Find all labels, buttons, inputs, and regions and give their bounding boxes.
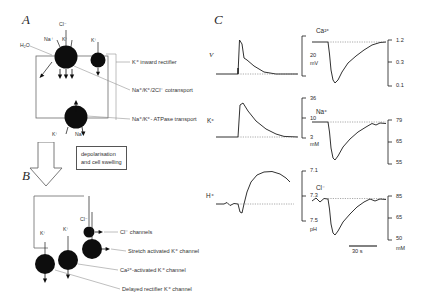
trace-ca-tick-12: 1.2 xyxy=(396,37,404,44)
annotation-nak-atpase: Na⁺/K⁺- ATPase transport xyxy=(132,116,197,123)
trace-na-plot xyxy=(312,116,392,168)
annotation-ca-activated-k: Ca²⁺-activated K⁺ channel xyxy=(120,267,186,274)
trace-ca-tick-03: 0.3 xyxy=(396,59,404,66)
label-k-mid-b: K⁺ xyxy=(40,230,46,237)
label-k-rectifier-a: K⁺ xyxy=(91,37,97,44)
annotation-cl-channels: Cl⁻ channels xyxy=(120,229,152,236)
label-k-left-b: K⁺ xyxy=(63,226,69,233)
label-cl-b: Cl⁻ xyxy=(80,216,88,223)
panel-b-diagram xyxy=(8,190,208,300)
trace-h-tick-71: 7.1 xyxy=(310,167,318,174)
k-inward-rectifier-circle xyxy=(91,53,106,68)
trace-k-tick-36: 36 xyxy=(310,95,316,102)
annotation-nak2cl-cotransport: Na⁺/K⁺/2Cl⁻ cotransport xyxy=(132,87,193,94)
trace-cl-tick-65: 65 xyxy=(396,214,402,221)
ca-activated-k-channel-circle xyxy=(58,250,78,270)
trace-label-na: Na⁺ xyxy=(316,108,327,116)
label-na-a: Na⁺ xyxy=(44,36,54,43)
trace-label-h: H⁺ xyxy=(206,192,214,200)
trace-cl-plot xyxy=(312,192,392,244)
trace-cl-unit: mM xyxy=(396,245,405,252)
trace-cl-tick-50: 50 xyxy=(396,235,402,242)
label-cl-a: Cl⁻ xyxy=(59,21,67,28)
trace-v-plot xyxy=(216,32,306,82)
cotransporter-circle xyxy=(55,46,78,69)
time-scale-label: 30 s xyxy=(352,248,363,255)
annotation-k-inward-rectifier: K⁺ inward rectifier xyxy=(132,59,177,66)
label-k-pump-a: K⁺ xyxy=(52,131,58,138)
cell-outline-b xyxy=(34,196,84,248)
trace-na-tick-65: 65 xyxy=(396,138,402,145)
label-h2o-a: H₂O xyxy=(20,42,30,49)
swell-text-line1: depolarisation xyxy=(81,150,122,158)
trace-na-tick-55: 55 xyxy=(396,159,402,166)
trace-na-tick-79: 79 xyxy=(396,117,402,124)
panel-a-diagram xyxy=(8,24,198,144)
swell-text-line2: and cell swelling xyxy=(81,158,122,166)
trace-label-cl: Cl⁻ xyxy=(316,184,325,192)
trace-h-plot xyxy=(216,168,306,226)
down-arrow-icon xyxy=(28,142,68,188)
cl-channel-circle xyxy=(84,227,95,238)
delayed-rectifier-k-channel-circle xyxy=(35,254,55,274)
trace-label-k: K⁺ xyxy=(207,117,214,125)
trace-cl-tick-85: 85 xyxy=(396,193,402,200)
trace-label-ca: Ca²⁺ xyxy=(316,27,329,35)
label-na-pump-a: Na⁺ xyxy=(75,131,85,138)
trace-k-plot xyxy=(216,95,306,145)
trace-label-v: V xyxy=(209,51,213,60)
panel-letter-c: C xyxy=(214,12,223,28)
annotation-stretch-activated-k: Stretch activated K⁺ channel xyxy=(128,248,199,255)
figure-canvas: A xyxy=(0,0,426,305)
trace-ca-plot xyxy=(312,36,392,91)
trace-ca-tick-01: 0.1 xyxy=(396,82,404,89)
depolarisation-swelling-box: depolarisation and cell swelling xyxy=(76,146,127,170)
stretch-activated-k-channel-circle xyxy=(82,239,102,259)
annotation-delayed-rectifier-k: Delayed rectifier K⁺ channel xyxy=(122,286,192,293)
panel-letter-b: B xyxy=(22,168,30,184)
label-k-cotransport-a: K⁺ xyxy=(62,36,68,43)
